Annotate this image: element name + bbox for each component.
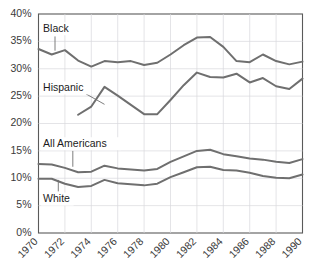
- x-axis-tick-label: 1990: [279, 235, 304, 260]
- annotation-label-black: Black: [43, 22, 69, 34]
- y-axis-tick-label: 40%: [10, 7, 31, 19]
- x-axis-tick-label: 1974: [68, 235, 93, 260]
- y-axis-tick-label: 15%: [10, 144, 31, 156]
- y-axis-tick-label: 25%: [10, 89, 31, 101]
- y-axis-tick-labels: 0%5%10%15%20%25%30%35%40%: [10, 7, 31, 238]
- line-chart: 0%5%10%15%20%25%30%35%40% 19701972197419…: [0, 0, 315, 271]
- x-axis-tick-label: 1978: [121, 235, 146, 260]
- y-axis-tick-label: 10%: [10, 171, 31, 183]
- x-axis-tick-label: 1988: [253, 235, 278, 260]
- annotation-label-white: White: [43, 192, 70, 204]
- x-axis-tick-label: 1970: [15, 235, 40, 260]
- annotation-label-all-americans: All Americans: [43, 137, 107, 149]
- x-axis-tick-label: 1984: [200, 235, 225, 260]
- y-axis-tick-label: 35%: [10, 34, 31, 46]
- x-axis-tick-label: 1976: [94, 235, 119, 260]
- y-axis-tick-label: 30%: [10, 62, 31, 74]
- y-axis-tick-label: 5%: [16, 198, 31, 210]
- y-axis-tick-label: 20%: [10, 116, 31, 128]
- x-axis-tick-label: 1982: [173, 235, 198, 260]
- x-axis-tick-label: 1986: [226, 235, 251, 260]
- annotation-label-hispanic: Hispanic: [43, 81, 83, 93]
- x-axis-tick-label: 1980: [147, 235, 172, 260]
- x-axis-tick-label: 1972: [41, 235, 66, 260]
- x-axis-tick-labels: 1970197219741976197819801982198419861988…: [15, 235, 304, 260]
- chart-container: 0%5%10%15%20%25%30%35%40% 19701972197419…: [0, 0, 315, 271]
